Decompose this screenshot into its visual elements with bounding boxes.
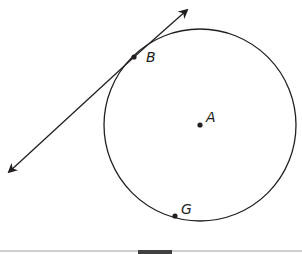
- point-g: [172, 213, 177, 218]
- tangent-line-lower: [9, 57, 134, 172]
- label-a: A: [205, 109, 216, 125]
- point-a: [197, 122, 202, 127]
- tangent-line: [134, 10, 187, 57]
- label-g: G: [181, 201, 192, 217]
- point-b: [131, 54, 136, 59]
- geometry-diagram: B A G: [0, 0, 302, 254]
- page-rule-block: [138, 250, 172, 254]
- label-b: B: [146, 49, 156, 65]
